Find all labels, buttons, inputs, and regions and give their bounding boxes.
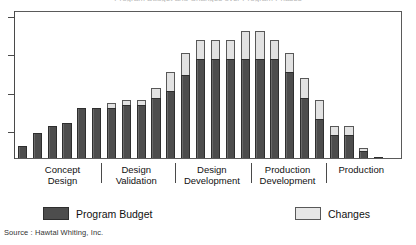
bar — [122, 100, 131, 158]
bar-segment-program-budget — [211, 59, 220, 158]
phase-label-3: Design Development — [169, 165, 255, 186]
bar-segment-program-budget — [18, 146, 27, 158]
bar — [255, 31, 264, 158]
bar-segment-changes — [285, 53, 294, 72]
bar — [181, 53, 190, 158]
bar-segment-program-budget — [300, 98, 309, 158]
bar — [33, 133, 42, 158]
bar — [137, 100, 146, 158]
chart-figure: Program Budget and Changes over Program … — [0, 0, 416, 245]
bar-segment-changes — [315, 100, 324, 119]
legend-item-changes: Changes — [295, 207, 370, 220]
bar — [18, 146, 27, 158]
bar-segment-program-budget — [107, 108, 116, 158]
bar — [92, 108, 101, 158]
bar-segment-changes — [226, 40, 235, 59]
bar-segment-changes — [151, 88, 160, 98]
bar — [107, 103, 116, 158]
phase-label-2: Design Validation — [93, 165, 179, 186]
bar — [77, 108, 86, 158]
legend-label-changes: Changes — [328, 208, 370, 220]
legend-swatch-changes — [295, 207, 321, 220]
bar-segment-program-budget — [196, 59, 205, 158]
bar-segment-program-budget — [77, 108, 86, 158]
bar-segment-program-budget — [255, 59, 264, 158]
bar-segment-program-budget — [285, 72, 294, 158]
bar-segment-program-budget — [344, 135, 353, 158]
bar-segment-program-budget — [137, 105, 146, 158]
bar-segment-program-budget — [315, 119, 324, 158]
bar-segment-program-budget — [48, 126, 57, 158]
bar-segment-program-budget — [151, 98, 160, 158]
source-note: Source : Hawtal Whiting, Inc. — [4, 228, 103, 237]
bar-segment-program-budget — [374, 157, 383, 158]
bar — [62, 123, 71, 158]
bar-segment-program-budget — [359, 151, 368, 158]
bar-segment-program-budget — [166, 91, 175, 158]
bar-segment-program-budget — [33, 133, 42, 158]
bar-segment-program-budget — [92, 108, 101, 158]
legend-swatch-program-budget — [43, 207, 69, 220]
bar-segment-program-budget — [122, 105, 131, 158]
bar-segment-program-budget — [226, 59, 235, 158]
bar-segment-changes — [300, 78, 309, 98]
phase-label-5: Production — [318, 165, 404, 176]
bar-segment-program-budget — [330, 135, 339, 158]
bar-segment-changes — [270, 40, 279, 59]
legend-label-program-budget: Program Budget — [76, 208, 152, 220]
bar-segment-changes — [166, 72, 175, 91]
bar — [300, 78, 309, 158]
bar-segment-changes — [344, 126, 353, 135]
bar — [196, 40, 205, 158]
legend-item-program-budget: Program Budget — [43, 207, 152, 220]
bar-segment-program-budget — [241, 59, 250, 158]
bar — [330, 126, 339, 158]
bar — [151, 88, 160, 158]
bar-segment-program-budget — [181, 75, 190, 158]
bar — [344, 126, 353, 158]
bar-segment-program-budget — [62, 123, 71, 158]
y-axis-tick-1 — [8, 132, 15, 133]
bar-segment-changes — [211, 40, 220, 59]
bar-segment-changes — [241, 31, 250, 59]
bar-series-container — [15, 12, 401, 158]
bar-segment-changes — [196, 40, 205, 59]
bar-segment-program-budget — [270, 59, 279, 158]
bar — [285, 53, 294, 158]
y-axis-tick-2 — [8, 94, 15, 95]
bar — [48, 126, 57, 158]
y-axis-tick-3 — [8, 55, 15, 56]
bar — [315, 100, 324, 158]
bar — [166, 72, 175, 158]
bar-segment-changes — [181, 53, 190, 75]
bar — [211, 40, 220, 158]
bar — [359, 148, 368, 158]
bar — [270, 40, 279, 158]
bar — [241, 31, 250, 158]
bar — [374, 157, 383, 158]
bar-segment-changes — [330, 126, 339, 135]
bar-segment-changes — [255, 31, 264, 59]
chart-title: Program Budget and Changes over Program … — [0, 0, 416, 2]
y-axis-tick-4 — [8, 17, 15, 18]
bar — [226, 40, 235, 158]
